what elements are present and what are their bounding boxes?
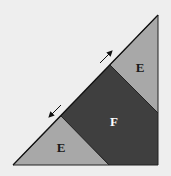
triangle-dissection-diagram: E F E: [0, 0, 171, 176]
arrow-up-right-icon: [100, 51, 112, 63]
arrow-down-left-icon: [49, 105, 61, 117]
f-label: F: [110, 114, 118, 129]
upper-e-label: E: [136, 60, 145, 75]
lower-e-label: E: [57, 140, 66, 155]
